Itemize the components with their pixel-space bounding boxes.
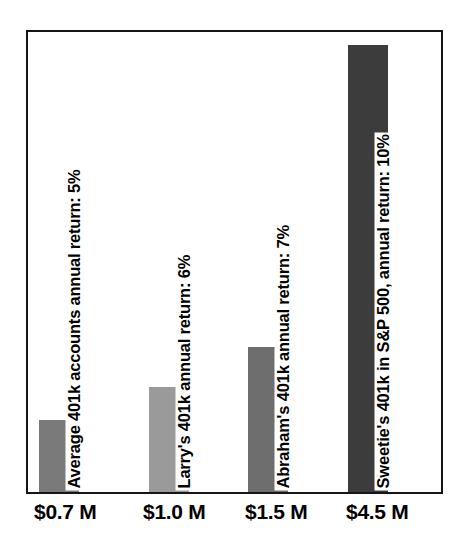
bar-caption-larry-401k: Larry's 401k annual return: 6% [176,252,194,490]
bar-caption-sweetie-sp500: Sweetie's 401k in S&P 500, annual return… [375,132,393,490]
bar-chart: Average 401k accounts annual return: 5% … [0,0,470,555]
x-axis-label-3: $4.5 M [346,500,408,524]
x-axis-label-2: $1.5 M [245,500,307,524]
x-axis-label-1: $1.0 M [143,500,205,524]
plot-area: Average 401k accounts annual return: 5% … [28,32,441,492]
x-axis-label-0: $0.7 M [34,500,96,524]
bar-caption-abraham-401k: Abraham's 401k annual return: 7% [274,223,292,490]
x-axis-tick-labels: $0.7 M $1.0 M $1.5 M $4.5 M [26,500,443,540]
bar-caption-average-401k: Average 401k accounts annual return: 5% [65,167,83,490]
plot-frame: Average 401k accounts annual return: 5% … [26,30,443,494]
